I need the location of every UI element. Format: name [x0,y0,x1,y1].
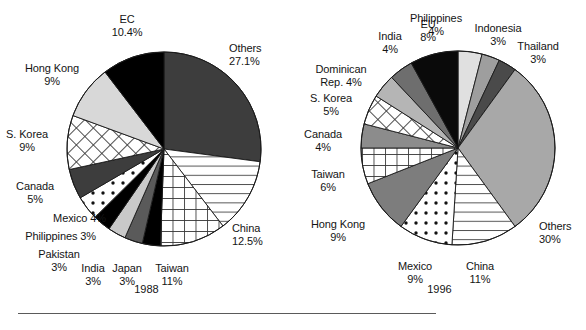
pie-label-line: 4% [342,43,438,56]
pie-slices [361,51,555,245]
pie-label-china: China12.5% [232,222,263,247]
pie-label-line: 4% [275,141,371,154]
pie-label-line: 9% [0,141,75,154]
pie-label-line: Rep. 4% [293,76,389,89]
pie-label-line: Philippines 3% [0,230,96,243]
pie-label-line: 10.4% [79,26,175,39]
pie-label-s-korea: S. Korea9% [0,128,75,153]
pie-label-canada: Canada4% [275,128,371,153]
pie-label-others: Others27.1% [229,42,261,67]
pie-label-line: Mexico 4% [0,212,106,225]
pie-label-line: Others [229,42,261,55]
pie-label-line: Mexico [367,260,463,273]
pie-slice-others [164,52,261,162]
pie-label-s-korea: S. Korea5% [283,92,379,117]
year-caption-1996: 1996 [293,283,586,295]
pie-label-pakistan: Pakistan3% [11,248,107,273]
pie-label-line: 3% [490,53,586,66]
pie-label-philippines: Philippines 3% [0,230,96,243]
pie-label-line: 27.1% [229,55,261,68]
pie-label-line: 30% [539,233,571,246]
pie-label-line: Thailand [490,40,586,53]
pie-label-line: 8% [380,31,476,44]
pie-label-line: S. Korea [283,92,379,105]
pie-label-line: 5% [0,193,83,206]
pie-label-line: 3% [11,261,107,274]
pie-label-line: 5% [283,105,379,118]
year-caption-1988: 1988 [0,283,293,295]
chart-panel-1988: Others27.1%China12.5%Taiwan11%Japan3%Ind… [0,0,293,330]
pie-label-line: Pakistan [11,248,107,261]
pie-label-line: Hong Kong [290,218,386,231]
pie-label-line: Taiwan [280,168,376,181]
pie-label-line: China [232,222,263,235]
pie-label-dominican: DominicanRep. 4% [293,63,389,88]
footer-divider-rule [18,313,436,314]
pie-label-line: S. Korea [0,128,75,141]
pie-label-mexico: Mexico9% [367,260,463,285]
pie-label-canada: Canada5% [0,180,83,205]
pie-label-line: Canada [275,128,371,141]
pie-label-line: Hong Kong [4,62,100,75]
pie-label-mexico: Mexico 4% [0,212,106,225]
pie-label-line: EU [380,18,476,31]
pie-label-eu: EU8% [380,18,476,43]
pie-label-taiwan: Taiwan6% [280,168,376,193]
pie-label-hong-kong: Hong Kong9% [4,62,100,87]
pie-label-line: 6% [280,181,376,194]
pie-label-ec: EC10.4% [79,13,175,38]
pie-chart-figure: Others27.1%China12.5%Taiwan11%Japan3%Ind… [0,0,586,330]
pie-label-line: Canada [0,180,83,193]
pie-label-line: Dominican [293,63,389,76]
pie-label-line: Others [539,220,571,233]
pie-label-line: 9% [290,231,386,244]
pie-label-thailand: Thailand3% [490,40,586,65]
pie-label-hong-kong: Hong Kong9% [290,218,386,243]
chart-panel-1996: Philippines4%Indonesia3%Thailand3%Others… [293,0,586,330]
pie-label-line: 9% [4,75,100,88]
pie-label-line: 12.5% [232,235,263,248]
pie-label-line: EC [79,13,175,26]
pie-label-others: Others30% [539,220,571,245]
